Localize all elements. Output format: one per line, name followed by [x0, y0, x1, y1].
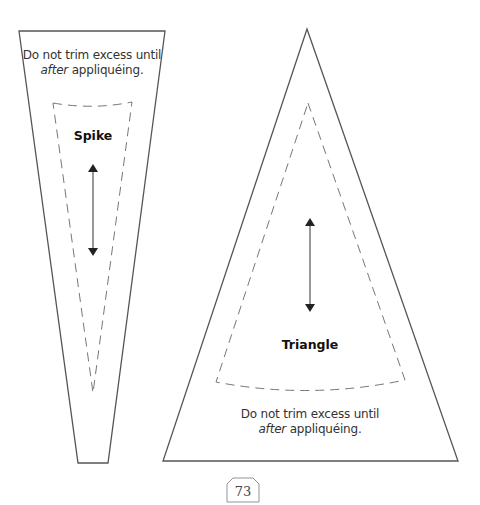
triangle-note-italic: after — [258, 422, 286, 436]
spike-template — [19, 31, 165, 463]
spike-note-rest: appliquéing. — [68, 63, 143, 77]
triangle-note-line2: after appliquéing. — [232, 422, 388, 437]
triangle-trim-note: Do not trim excess until after appliquéi… — [232, 407, 388, 437]
triangle-template — [163, 29, 458, 461]
spike-outline — [19, 31, 165, 463]
page-number: 73 — [227, 478, 259, 503]
triangle-label: Triangle — [270, 337, 350, 352]
spike-label: Spike — [63, 128, 123, 143]
spike-note-line1: Do not trim excess until — [22, 48, 162, 63]
spike-trim-note: Do not trim excess until after appliquéi… — [22, 48, 162, 78]
triangle-note-rest: appliquéing. — [286, 422, 361, 436]
spike-note-line2: after appliquéing. — [22, 63, 162, 78]
triangle-note-line1: Do not trim excess until — [232, 407, 388, 422]
spike-note-italic: after — [40, 63, 68, 77]
